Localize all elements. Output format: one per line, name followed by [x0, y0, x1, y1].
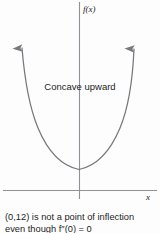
plot-area: f(x) x Concave upward [0, 0, 160, 210]
figure-container: f(x) x Concave upward (0,12) is not a po… [0, 0, 160, 233]
y-axis-label: f(x) [83, 5, 96, 14]
caption-line-1: (0,12) is not a point of inflection [5, 212, 160, 224]
concave-upward-label: Concave upward [0, 82, 160, 92]
figure-caption: (0,12) is not a point of inflection even… [5, 212, 160, 233]
caption-line-2: even though f″(0) = 0 [5, 224, 160, 234]
x-axis-label: x [146, 193, 150, 202]
coordinate-plot [0, 0, 160, 210]
concave-upward-curve [22, 48, 134, 170]
